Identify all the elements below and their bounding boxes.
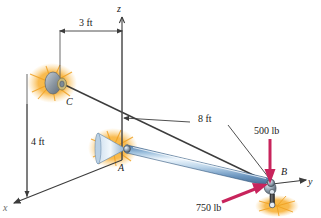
axis-label-x: x [3,203,7,213]
force-label-750lb: 750 lb [196,203,221,213]
point-label-b: B [281,167,287,177]
axis-lines [14,17,306,203]
dimension-label-8ft: 8 ft [198,114,212,124]
projection-lines [27,30,122,198]
force-arrow-500lb [265,139,276,184]
boom-ab [124,145,272,187]
axis-x-line [14,160,122,203]
joint-ball-a [124,146,131,153]
dimension-label-3ft: 3 ft [79,18,93,28]
support-burst-b [255,195,299,217]
point-label-a: A [118,163,124,173]
point-label-c: C [66,97,73,107]
axis-label-z: z [117,4,121,14]
axis-y-line [272,180,306,184]
cable-cb [63,84,272,184]
statics-diagram-figure: 3 ft 4 ft 8 ft 500 lb 750 lb C A B z y x [0,0,321,218]
force-label-500lb: 500 lb [254,126,279,136]
dimension-label-4ft: 4 ft [31,137,45,147]
diagram-canvas [0,0,321,218]
axis-label-y: y [308,177,312,187]
